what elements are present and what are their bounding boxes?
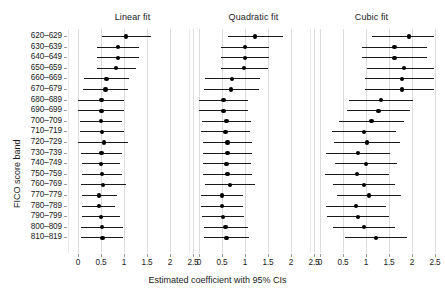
panel-edge-line bbox=[68, 29, 69, 253]
y-axis-tick bbox=[64, 68, 67, 69]
estimate-point bbox=[365, 140, 369, 144]
y-axis-tick bbox=[64, 206, 67, 207]
estimate-point bbox=[100, 236, 104, 240]
x-axis-tick-label: 2.5 bbox=[423, 258, 445, 267]
gridline bbox=[268, 29, 269, 253]
y-axis-band-label: 760–769 bbox=[24, 179, 62, 188]
estimate-point bbox=[124, 34, 128, 38]
estimate-point bbox=[100, 172, 104, 176]
y-axis-tick bbox=[64, 121, 67, 122]
x-axis-tick-label: 0 bbox=[66, 258, 90, 267]
y-axis-tick bbox=[64, 195, 67, 196]
estimate-point bbox=[224, 119, 228, 123]
gridline bbox=[435, 29, 436, 253]
y-axis-band-label: 680–689 bbox=[24, 95, 62, 104]
estimate-point bbox=[354, 204, 358, 208]
y-axis-tick bbox=[64, 174, 67, 175]
gridline bbox=[199, 29, 200, 253]
estimate-point bbox=[407, 34, 411, 38]
y-axis-band-label: 810–819 bbox=[24, 232, 62, 241]
estimate-point bbox=[114, 66, 118, 70]
estimate-point bbox=[402, 66, 406, 70]
y-axis-band-label: 690–699 bbox=[24, 105, 62, 114]
estimate-point bbox=[104, 77, 108, 81]
estimate-point bbox=[99, 109, 103, 113]
y-axis-tick bbox=[64, 47, 67, 48]
estimate-point bbox=[225, 140, 229, 144]
estimate-point bbox=[116, 45, 120, 49]
x-axis-tick bbox=[101, 254, 102, 257]
estimate-point bbox=[221, 109, 225, 113]
estimate-point bbox=[99, 119, 103, 123]
confidence-interval-line bbox=[367, 68, 434, 69]
panel-edge-line bbox=[189, 29, 190, 253]
y-axis-tick bbox=[64, 78, 67, 79]
y-axis-band-label: 750–759 bbox=[24, 169, 62, 178]
x-axis-tick-label: 1.5 bbox=[377, 258, 401, 267]
gridline bbox=[222, 29, 223, 253]
y-axis-band-label: 620–629 bbox=[24, 31, 62, 40]
y-axis-band-label: 670–679 bbox=[24, 84, 62, 93]
estimate-point bbox=[224, 236, 228, 240]
x-axis-tick bbox=[435, 254, 436, 257]
estimate-point bbox=[392, 45, 396, 49]
y-axis-band-label: 640–649 bbox=[24, 52, 62, 61]
estimate-point bbox=[99, 162, 103, 166]
estimate-point bbox=[223, 225, 227, 229]
x-axis-tick bbox=[412, 254, 413, 257]
confidence-interval-line bbox=[372, 36, 434, 37]
y-axis-tick bbox=[64, 100, 67, 101]
x-axis-tick-label: 1 bbox=[354, 258, 378, 267]
panel-title-quadratic: Quadratic fit bbox=[188, 12, 319, 22]
y-axis-tick bbox=[64, 110, 67, 111]
x-axis-tick bbox=[389, 254, 390, 257]
x-axis-tick bbox=[366, 254, 367, 257]
gridline bbox=[170, 29, 171, 253]
x-axis-tick-label: 0.5 bbox=[89, 258, 113, 267]
estimate-point bbox=[400, 87, 404, 91]
x-axis-tick bbox=[320, 254, 321, 257]
y-axis-band-label: 790–799 bbox=[24, 211, 62, 220]
x-axis-tick-label: 2 bbox=[279, 258, 303, 267]
y-axis-tick bbox=[64, 57, 67, 58]
x-axis-tick-label: 1.5 bbox=[135, 258, 159, 267]
estimate-point bbox=[230, 77, 234, 81]
gridline bbox=[314, 29, 315, 253]
x-axis-tick bbox=[199, 254, 200, 257]
y-axis-tick bbox=[64, 227, 67, 228]
x-axis-tick bbox=[343, 254, 344, 257]
gridline bbox=[193, 29, 194, 253]
x-axis-tick bbox=[268, 254, 269, 257]
estimate-point bbox=[243, 56, 247, 60]
gridline bbox=[343, 29, 344, 253]
gridline bbox=[147, 29, 148, 253]
estimate-point bbox=[355, 172, 359, 176]
x-axis-tick-label: 0 bbox=[187, 258, 211, 267]
estimate-point bbox=[116, 56, 120, 60]
gridline bbox=[245, 29, 246, 253]
y-axis-tick bbox=[64, 184, 67, 185]
x-axis-tick bbox=[193, 254, 194, 257]
y-axis-tick bbox=[64, 89, 67, 90]
y-axis-band-label: 740–749 bbox=[24, 158, 62, 167]
panel-title-cubic: Cubic fit bbox=[309, 12, 434, 22]
y-axis-tick bbox=[64, 153, 67, 154]
y-axis-band-label: 730–739 bbox=[24, 148, 62, 157]
estimate-point bbox=[400, 77, 404, 81]
estimate-point bbox=[228, 183, 232, 187]
y-axis-tick bbox=[64, 131, 67, 132]
x-axis-tick-label: 2 bbox=[400, 258, 424, 267]
x-axis-tick bbox=[147, 254, 148, 257]
estimate-point bbox=[97, 193, 101, 197]
x-axis-tick-label: 2 bbox=[158, 258, 182, 267]
estimate-point bbox=[225, 172, 229, 176]
estimate-point bbox=[102, 140, 106, 144]
estimate-point bbox=[253, 34, 257, 38]
x-axis-tick bbox=[170, 254, 171, 257]
y-axis-band-label: 770–779 bbox=[24, 190, 62, 199]
y-axis-tick bbox=[64, 36, 67, 37]
x-axis-tick-label: 0.5 bbox=[210, 258, 234, 267]
estimate-point bbox=[362, 183, 366, 187]
estimate-point bbox=[379, 98, 383, 102]
